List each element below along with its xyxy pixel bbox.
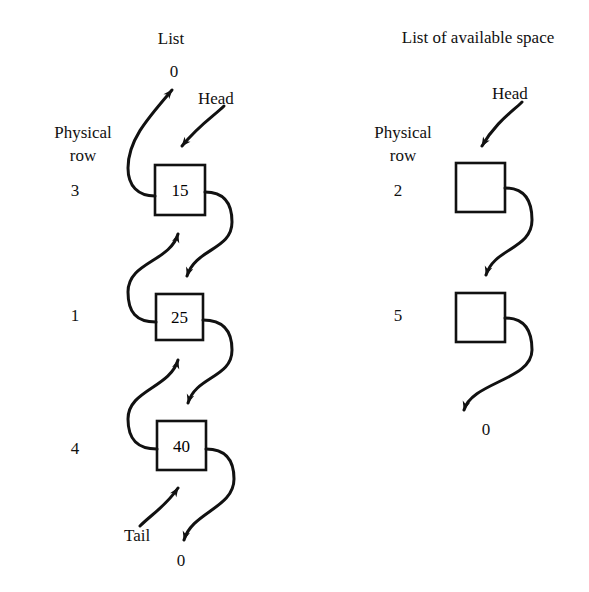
tail-pointer-arrow: [140, 488, 178, 526]
tail-label: Tail: [124, 527, 150, 544]
head-label: Head: [198, 90, 234, 107]
available-space-list-title: List of available space: [378, 29, 578, 46]
node-value-25: 25: [156, 309, 203, 326]
physical-row-label-line2: row: [28, 147, 138, 164]
available-row-number-5: 5: [378, 307, 418, 324]
available-node-box-5: [456, 293, 505, 342]
available-physical-row-label-line2: row: [348, 147, 458, 164]
linked-list-diagram: List Physical row 3 1 4 0 Head 15 25 40 …: [0, 0, 589, 592]
available-head-label: Head: [492, 85, 528, 102]
node-value-15: 15: [155, 182, 205, 199]
available-head-pointer-arrow: [482, 102, 522, 146]
physical-row-label-line1: Physical: [28, 124, 138, 141]
head-pointer-arrow: [182, 106, 224, 146]
row-number-3: 3: [55, 182, 95, 199]
row-number-1: 1: [55, 307, 95, 324]
available-row-number-2: 2: [378, 182, 418, 199]
node-value-40: 40: [157, 438, 206, 455]
tail-null-label: 0: [174, 552, 188, 569]
available-tail-null-label: 0: [479, 421, 493, 438]
list-title: List: [143, 30, 199, 47]
available-node-box-2: [456, 163, 505, 212]
row-number-4: 4: [55, 440, 95, 457]
available-physical-row-label-line1: Physical: [348, 124, 458, 141]
head-null-label: 0: [167, 63, 181, 80]
